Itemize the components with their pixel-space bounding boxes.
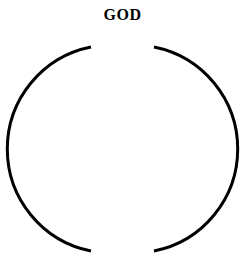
left-arc	[7, 47, 91, 251]
circle-diagram	[0, 0, 241, 274]
right-arc	[154, 47, 238, 251]
